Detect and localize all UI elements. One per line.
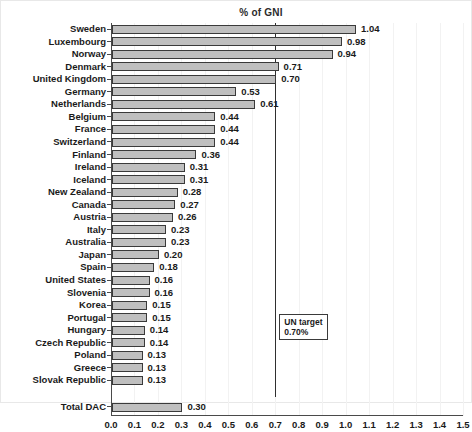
value-label-slovak-republic: 0.13 — [148, 374, 167, 387]
bar-slovenia — [112, 288, 150, 297]
x-tick-label: 0.3 — [175, 419, 188, 430]
category-label-poland: Poland — [74, 349, 106, 362]
y-axis-tick — [107, 104, 111, 105]
category-label-france: France — [75, 123, 106, 136]
bar-hungary — [112, 326, 145, 335]
y-axis-tick — [107, 254, 111, 255]
y-axis-tick — [107, 41, 111, 42]
x-tick-label: 1.3 — [409, 419, 422, 430]
bar-united-kingdom — [112, 75, 276, 84]
y-axis-tick — [107, 54, 111, 55]
y-axis-tick — [107, 406, 111, 407]
un-target-annotation: UN target 0.70% — [279, 314, 327, 340]
category-label-canada: Canada — [72, 199, 106, 212]
bar-row: Finland0.36 — [111, 149, 463, 162]
value-label-united-kingdom: 0.70 — [281, 73, 300, 86]
bar-canada — [112, 200, 175, 209]
bar-row: Germany0.53 — [111, 86, 463, 99]
y-axis-tick — [107, 91, 111, 92]
bar-portugal — [112, 313, 147, 322]
y-axis-tick — [107, 167, 111, 168]
plot-area: Sweden1.04Luxembourg0.98Norway0.94Denmar… — [111, 23, 463, 416]
bar-row: Ireland0.31 — [111, 161, 463, 174]
category-label-luxembourg: Luxembourg — [48, 36, 106, 49]
category-label-slovak-republic: Slovak Republic — [33, 374, 106, 387]
bar-row: Total DAC0.30 — [111, 401, 463, 414]
value-label-greece: 0.13 — [148, 362, 167, 375]
bar-norway — [112, 50, 333, 59]
un-target-line1: UN target — [284, 317, 322, 327]
x-tick-label: 1.2 — [386, 419, 399, 430]
category-label-new-zealand: New Zealand — [48, 186, 106, 199]
y-axis-tick — [107, 29, 111, 30]
bar-row: Luxembourg0.98 — [111, 36, 463, 49]
x-tick-label: 0.1 — [128, 419, 141, 430]
bar-austria — [112, 213, 173, 222]
category-label-sweden: Sweden — [70, 23, 106, 36]
y-axis-tick — [107, 129, 111, 130]
value-label-iceland: 0.31 — [190, 174, 209, 187]
y-axis-tick — [107, 380, 111, 381]
bar-poland — [112, 351, 143, 360]
bar-united-states — [112, 276, 150, 285]
bar-row: Iceland0.31 — [111, 174, 463, 187]
x-tick-label: 0.7 — [269, 419, 282, 430]
value-label-germany: 0.53 — [241, 86, 260, 99]
bar-row: Italy0.23 — [111, 224, 463, 237]
bar-italy — [112, 225, 166, 234]
bar-row: Slovenia0.16 — [111, 287, 463, 300]
x-tick-label: 0.5 — [222, 419, 235, 430]
value-label-norway: 0.94 — [338, 48, 357, 61]
x-tick-label: 1.0 — [339, 419, 352, 430]
category-label-japan: Japan — [79, 249, 106, 262]
bar-czech-republic — [112, 338, 145, 347]
x-tick-label: 1.5 — [456, 419, 469, 430]
y-axis-tick — [107, 116, 111, 117]
chart-title: % of GNI — [113, 7, 409, 18]
y-axis-tick — [107, 192, 111, 193]
x-tick-label: 0.6 — [245, 419, 258, 430]
y-axis-tick — [107, 292, 111, 293]
value-label-ireland: 0.31 — [190, 161, 209, 174]
bar-netherlands — [112, 100, 255, 109]
y-axis-tick — [107, 330, 111, 331]
bar-finland — [112, 150, 196, 159]
value-label-slovenia: 0.16 — [155, 287, 174, 300]
x-axis-tick-labels: 0.00.10.20.30.40.50.60.70.80.91.01.11.21… — [111, 419, 463, 432]
y-axis-tick — [107, 305, 111, 306]
bar-row: Netherlands0.61 — [111, 98, 463, 111]
category-label-slovenia: Slovenia — [67, 287, 106, 300]
x-tick-label: 1.4 — [433, 419, 446, 430]
value-label-australia: 0.23 — [171, 236, 190, 249]
y-axis-tick — [107, 141, 111, 142]
category-label-korea: Korea — [79, 299, 106, 312]
value-label-luxembourg: 0.98 — [347, 36, 366, 49]
value-label-finland: 0.36 — [201, 149, 220, 162]
bar-luxembourg — [112, 37, 342, 46]
category-label-united-kingdom: United Kingdom — [33, 73, 106, 86]
bar-row: Korea0.15 — [111, 299, 463, 312]
gridline — [463, 23, 464, 416]
bar-greece — [112, 363, 143, 372]
value-label-poland: 0.13 — [148, 349, 167, 362]
category-label-denmark: Denmark — [65, 61, 106, 74]
y-axis-tick — [107, 342, 111, 343]
category-label-netherlands: Netherlands — [51, 98, 106, 111]
bar-row: Norway0.94 — [111, 48, 463, 61]
bar-spain — [112, 263, 154, 272]
bar-total-dac — [112, 403, 182, 412]
y-axis-tick — [107, 355, 111, 356]
bar-row: Australia0.23 — [111, 236, 463, 249]
y-axis-tick — [107, 267, 111, 268]
bar-row: Denmark0.71 — [111, 61, 463, 74]
bar-slovak-republic — [112, 376, 143, 385]
x-tick-label: 0.0 — [104, 419, 117, 430]
category-label-total-dac: Total DAC — [61, 401, 106, 414]
bar-row: Japan0.20 — [111, 249, 463, 262]
value-label-korea: 0.15 — [152, 299, 171, 312]
bar-australia — [112, 238, 166, 247]
bar-france — [112, 125, 215, 134]
y-axis-tick — [107, 154, 111, 155]
bar-sweden — [112, 25, 356, 34]
